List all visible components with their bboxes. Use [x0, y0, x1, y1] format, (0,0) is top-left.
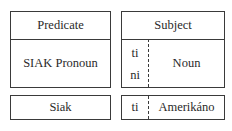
- subject-marker-ni: ni: [122, 65, 148, 85]
- subject-example-box: ti Amerikáno: [121, 95, 225, 120]
- subject-example-marker: ti: [122, 96, 148, 119]
- predicate-header: Predicate: [11, 12, 110, 40]
- subject-marker-ti: ti: [122, 43, 148, 63]
- subject-box: Subject ti ni Noun: [121, 11, 225, 88]
- predicate-box: Predicate SIAK Pronoun: [10, 11, 111, 88]
- predicate-example-box: Siak: [10, 95, 111, 120]
- subject-example: Amerikáno: [149, 96, 224, 119]
- subject-body-area: ti ni Noun: [122, 39, 224, 87]
- predicate-body: SIAK Pronoun: [11, 39, 110, 87]
- predicate-example: Siak: [11, 96, 110, 119]
- subject-body: Noun: [149, 39, 224, 87]
- subject-header: Subject: [122, 12, 224, 40]
